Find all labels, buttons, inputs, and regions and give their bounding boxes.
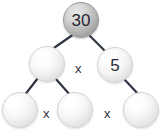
- node-leaf-right[interactable]: [123, 92, 159, 128]
- node-leaf-left[interactable]: [2, 92, 38, 128]
- operator-multiply-leaf-left: x: [43, 107, 50, 120]
- node-mid-right-label: 5: [110, 57, 119, 74]
- node-mid-right[interactable]: 5: [97, 47, 133, 83]
- operator-multiply-mid: x: [75, 62, 82, 75]
- node-leaf-middle[interactable]: [57, 92, 93, 128]
- node-root-label: 30: [72, 12, 91, 29]
- factor-tree-diagram: 30 x 5 x x: [0, 0, 162, 135]
- node-mid-left[interactable]: [29, 46, 65, 82]
- operator-multiply-leaf-right: x: [104, 107, 111, 120]
- edge-root-midright: [88, 34, 106, 52]
- node-root[interactable]: 30: [63, 2, 99, 38]
